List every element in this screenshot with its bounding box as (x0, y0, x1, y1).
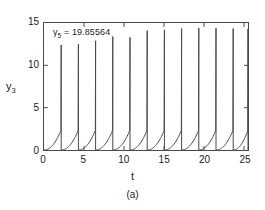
x-tick-label: 5 (68, 155, 98, 165)
figure-panel: γ5 = 19.85564 051015 0510152025 y3 t (a) (0, 0, 265, 210)
equals-sign: = (64, 27, 69, 37)
figure-caption: (a) (0, 189, 265, 200)
x-tick-label: 10 (109, 155, 139, 165)
y-axis-title: y3 (6, 80, 16, 95)
x-tick-label: 15 (149, 155, 179, 165)
plot-area: γ5 = 19.85564 (43, 22, 249, 151)
gamma-subscript: 5 (58, 32, 62, 39)
x-tick-label: 20 (190, 155, 220, 165)
x-axis-tick-labels: 0510152025 (0, 155, 265, 169)
gamma5-value: 19.85564 (72, 27, 110, 37)
x-tick-label: 0 (28, 155, 58, 165)
y-tick-label: 10 (13, 60, 39, 70)
gamma5-annotation: γ5 = 19.85564 (53, 27, 110, 39)
y-tick-label: 5 (13, 103, 39, 113)
x-tick-label: 25 (230, 155, 260, 165)
y-tick-label: 15 (13, 17, 39, 27)
x-axis-title: t (0, 170, 265, 182)
y-axis-title-subscript: 3 (12, 86, 16, 95)
spike-train-curve (44, 23, 248, 150)
